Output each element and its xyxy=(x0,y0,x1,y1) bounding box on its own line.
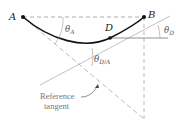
reference-tangent-label-line2: tangent xyxy=(44,101,70,111)
reference-tangent-label-line1: Reference xyxy=(40,91,75,101)
point-b xyxy=(142,15,146,19)
annotation-arrow xyxy=(81,86,97,97)
label-d: D xyxy=(104,22,113,33)
deflection-diagram: A B D θA θD θD/A Reference tangent xyxy=(0,0,183,125)
point-a xyxy=(21,15,25,19)
theta-d-arc xyxy=(158,25,160,38)
label-theta-da: θD/A xyxy=(94,54,111,65)
label-a: A xyxy=(8,11,16,22)
arrowhead-icon xyxy=(95,84,99,88)
label-theta-d: θD xyxy=(164,25,174,36)
reference-tangent-line xyxy=(23,17,144,119)
label-theta-a: θA xyxy=(65,24,75,35)
label-b: B xyxy=(147,9,155,20)
point-d xyxy=(108,36,112,40)
theta-a-arc xyxy=(55,17,63,44)
